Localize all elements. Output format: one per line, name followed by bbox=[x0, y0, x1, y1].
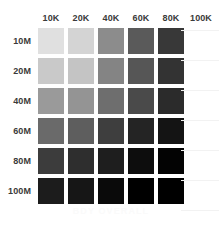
heatmap-cell-slot bbox=[96, 26, 126, 56]
column-header-20k: 20K bbox=[66, 13, 96, 26]
row-separator bbox=[181, 90, 219, 91]
row-label-100m: 100M bbox=[0, 186, 36, 196]
heatmap-cell-slot bbox=[96, 56, 126, 86]
heatmap-cell-10m-80k[interactable] bbox=[158, 28, 184, 54]
heatmap-cell-20m-80k[interactable] bbox=[158, 58, 184, 84]
row-separator bbox=[181, 120, 219, 121]
watermark-caption: BDY OVERALL bbox=[0, 206, 222, 216]
row-separator bbox=[181, 60, 219, 61]
heatmap-cell-60m-100k bbox=[188, 118, 214, 144]
heatmap-cell-80m-20k[interactable] bbox=[68, 148, 94, 174]
heatmap-cell-40m-40k[interactable] bbox=[98, 88, 124, 114]
heatmap-cell-slot bbox=[126, 26, 156, 56]
heatmap-rows: 10M20M40M60M80M100M bbox=[0, 26, 222, 206]
heatmap-cell-slot bbox=[126, 56, 156, 86]
heatmap-cell-60m-40k[interactable] bbox=[98, 118, 124, 144]
column-header-row: 10K 20K 40K 60K 80K 100K bbox=[0, 0, 222, 26]
row-label-20m: 20M bbox=[0, 66, 36, 76]
row-label-80m: 80M bbox=[0, 156, 36, 166]
heatmap-cell-slot bbox=[36, 116, 66, 146]
column-header-100k: 100K bbox=[186, 13, 216, 26]
heatmap-cell-10m-40k[interactable] bbox=[98, 28, 124, 54]
heatmap-cell-100m-80k[interactable] bbox=[158, 178, 184, 204]
heatmap-cell-100m-10k[interactable] bbox=[38, 178, 64, 204]
heatmap-cell-60m-80k[interactable] bbox=[158, 118, 184, 144]
heatmap-cell-slot bbox=[66, 86, 96, 116]
heatmap-cell-100m-20k[interactable] bbox=[68, 178, 94, 204]
heatmap-cell-20m-10k[interactable] bbox=[38, 58, 64, 84]
heatmap-cell-40m-100k bbox=[188, 88, 214, 114]
heatmap-cell-20m-20k[interactable] bbox=[68, 58, 94, 84]
heatmap-cell-slot bbox=[96, 116, 126, 146]
heatmap-cell-20m-40k[interactable] bbox=[98, 58, 124, 84]
column-header-80k: 80K bbox=[156, 13, 186, 26]
heatmap-cell-slot bbox=[66, 56, 96, 86]
heatmap-cell-slot bbox=[126, 86, 156, 116]
heatmap-cell-slot bbox=[66, 116, 96, 146]
heatmap-cell-80m-40k[interactable] bbox=[98, 148, 124, 174]
heatmap-cell-40m-20k[interactable] bbox=[68, 88, 94, 114]
heatmap-cell-slot bbox=[36, 146, 66, 176]
row-label-10m: 10M bbox=[0, 36, 36, 46]
heatmap-cell-80m-10k[interactable] bbox=[38, 148, 64, 174]
heatmap-cell-40m-80k[interactable] bbox=[158, 88, 184, 114]
heatmap-cell-100m-40k[interactable] bbox=[98, 178, 124, 204]
heatmap-cell-slot bbox=[36, 86, 66, 116]
column-header-10k: 10K bbox=[36, 13, 66, 26]
heatmap-cell-slot bbox=[96, 86, 126, 116]
row-label-60m: 60M bbox=[0, 126, 36, 136]
heatmap-cell-slot bbox=[36, 56, 66, 86]
heatmap-cell-slot bbox=[126, 116, 156, 146]
heatmap-cell-10m-60k[interactable] bbox=[128, 28, 154, 54]
heatmap-cell-40m-60k[interactable] bbox=[128, 88, 154, 114]
heatmap-cell-60m-20k[interactable] bbox=[68, 118, 94, 144]
heatmap-cell-10m-100k bbox=[188, 28, 214, 54]
heatmap-cell-10m-10k[interactable] bbox=[38, 28, 64, 54]
heatmap-cell-slot bbox=[36, 176, 66, 206]
heatmap-cell-60m-60k[interactable] bbox=[128, 118, 154, 144]
heatmap-cell-10m-20k[interactable] bbox=[68, 28, 94, 54]
heatmap-cell-slot bbox=[96, 146, 126, 176]
heatmap-cell-slot bbox=[66, 146, 96, 176]
row-separator bbox=[181, 180, 219, 181]
heatmap-cell-slot bbox=[66, 176, 96, 206]
heatmap-cell-slot bbox=[96, 176, 126, 206]
heatmap-cell-slot bbox=[126, 146, 156, 176]
heatmap-cell-80m-80k[interactable] bbox=[158, 148, 184, 174]
heatmap-cell-100m-100k bbox=[188, 178, 214, 204]
column-header-60k: 60K bbox=[126, 13, 156, 26]
heatmap-cell-80m-100k bbox=[188, 148, 214, 174]
heatmap-cell-100m-60k[interactable] bbox=[128, 178, 154, 204]
heatmap-cell-20m-100k bbox=[188, 58, 214, 84]
heatmap-cell-40m-10k[interactable] bbox=[38, 88, 64, 114]
column-header-40k: 40K bbox=[96, 13, 126, 26]
row-separator bbox=[181, 150, 219, 151]
heatmap-cell-slot bbox=[126, 176, 156, 206]
heatmap-cell-60m-10k[interactable] bbox=[38, 118, 64, 144]
heatmap-cell-slot bbox=[66, 26, 96, 56]
heatmap-cell-slot bbox=[36, 26, 66, 56]
heatmap-cell-80m-60k[interactable] bbox=[128, 148, 154, 174]
row-label-40m: 40M bbox=[0, 96, 36, 106]
heatmap-cell-20m-60k[interactable] bbox=[128, 58, 154, 84]
heatmap-figure: 10K 20K 40K 60K 80K 100K 10M20M40M60M80M… bbox=[0, 0, 222, 226]
row-separator bbox=[181, 30, 219, 31]
